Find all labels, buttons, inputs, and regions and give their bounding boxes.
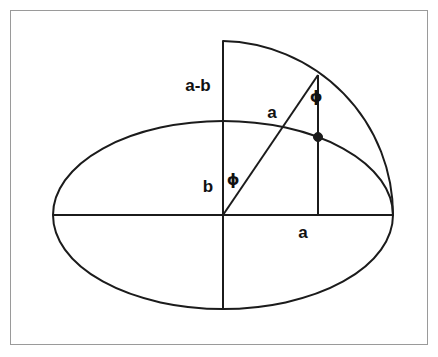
auxiliary-circle-arc <box>223 41 393 215</box>
label-phi-lower: ϕ <box>227 172 240 188</box>
ellipse-point-dot <box>314 133 323 142</box>
label-a-minus-b: a-b <box>185 77 211 94</box>
label-a-radius: a <box>267 104 276 121</box>
label-b-semi-minor: b <box>203 178 213 195</box>
geometry-diagram <box>0 0 438 357</box>
radius-line-to-circle-point <box>223 75 318 215</box>
figure-root: a-b a ϕ b ϕ a <box>0 0 438 357</box>
label-a-semi-major: a <box>298 224 307 241</box>
label-phi-upper: ϕ <box>310 89 323 105</box>
